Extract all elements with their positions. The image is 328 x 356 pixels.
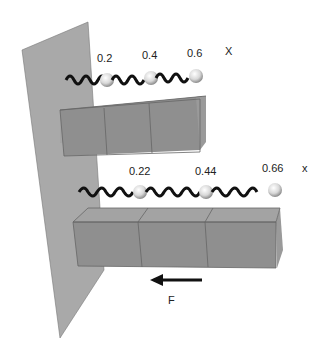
top-label-3: 0.6 (187, 47, 202, 59)
bottom-label-3: 0.66 (262, 162, 283, 174)
bottom-label-2: 0.44 (195, 165, 216, 177)
wall (22, 22, 104, 338)
force-arrow (150, 274, 202, 286)
ball (189, 69, 203, 83)
ball (144, 71, 158, 85)
bottom-blocks (73, 208, 283, 268)
bottom-label-1: 0.22 (129, 165, 150, 177)
ball (268, 183, 282, 197)
ball (199, 185, 213, 199)
ball (133, 185, 147, 199)
top-axis-label: X (225, 45, 233, 57)
diagram: 0.2 0.4 0.6 X 0.22 0.44 0.66 x F (0, 0, 328, 356)
bottom-spring-chain (79, 183, 282, 199)
ball (100, 73, 114, 87)
top-label-2: 0.4 (142, 49, 157, 61)
force-label: F (168, 294, 175, 306)
top-label-1: 0.2 (97, 52, 112, 64)
bottom-axis-label: x (302, 162, 308, 174)
